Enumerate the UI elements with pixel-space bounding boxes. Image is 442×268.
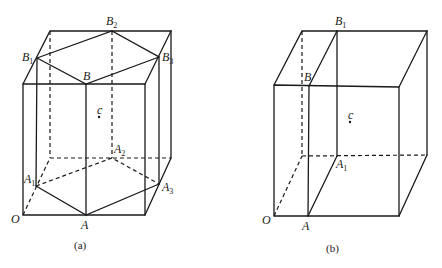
edge-B-B1: [309, 31, 337, 86]
label-A: A: [80, 218, 89, 232]
box-a-top-face: [23, 31, 171, 84]
hexagon-top: [37, 31, 159, 84]
label-A2: A2: [113, 142, 125, 158]
label-c: c: [348, 108, 354, 122]
label-c: c: [97, 103, 103, 117]
hexagon-bottom-front: [36, 184, 159, 215]
hexagon-bottom-back: [36, 158, 159, 186]
label-B: B: [304, 70, 312, 84]
figure-b: c B1 B A1 O A (b): [262, 14, 427, 255]
label-O: O: [11, 212, 20, 226]
label-B1: B1: [335, 14, 346, 30]
label-B: B: [83, 69, 91, 83]
box-b-top-face: [274, 31, 427, 87]
caption-b: (b): [326, 242, 339, 255]
box-b-hidden-bottom-left: [274, 156, 302, 216]
label-A1: A1: [23, 172, 35, 188]
label-O: O: [262, 213, 271, 227]
label-B1: B1: [22, 50, 33, 66]
label-B2: B2: [106, 14, 117, 30]
edge-B1-A1: [36, 58, 37, 186]
edge-A-A1: [308, 156, 337, 216]
label-A: A: [301, 219, 310, 233]
box-a-front-face: [23, 84, 145, 215]
box-b-bottom-right-edge: [399, 155, 427, 216]
diagram-canvas: c B2 B1 B3 B A2 A1 A3 O A (a) c: [0, 0, 442, 268]
label-A1: A1: [335, 157, 347, 173]
caption-a: (a): [74, 239, 87, 252]
figure-a: c B2 B1 B3 B A2 A1 A3 O A (a): [11, 14, 173, 252]
edge-B-A: [308, 86, 309, 216]
label-A3: A3: [161, 180, 173, 196]
box-b-hidden-back-bottom: [302, 155, 427, 156]
